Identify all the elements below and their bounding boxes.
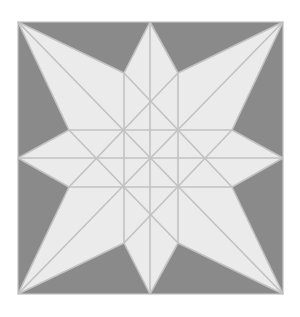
star-diagram [0, 0, 300, 317]
construction-lines [18, 22, 283, 294]
